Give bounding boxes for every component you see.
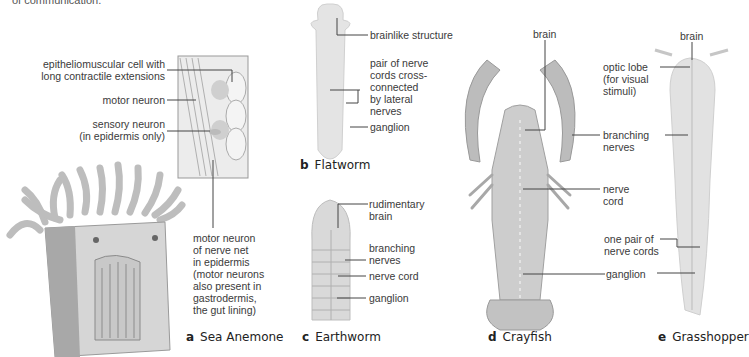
grasshopper-illustration — [655, 50, 728, 315]
sea-anemone-inset — [178, 56, 248, 178]
label-sensory-neuron: sensory neuron (in epidermis only) — [40, 118, 165, 142]
label-branching-nerves: branching nerves — [603, 129, 649, 153]
label-ganglion-flatworm: ganglion — [370, 121, 410, 133]
label-nerve-cord: nerve cord — [603, 183, 629, 207]
label-brain-crayfish: brain — [533, 28, 556, 40]
label-nerve-cord-earthworm: nerve cord — [369, 270, 419, 282]
label-brain-grasshopper: brain — [680, 30, 703, 42]
label-motor-neuron: motor neuron — [70, 94, 165, 106]
label-optic-lobe: optic lobe (for visual stimuli) — [603, 61, 649, 97]
label-one-pair-nerve-cords: one pair of nerve cords — [604, 233, 659, 257]
label-ganglion: ganglion — [606, 268, 646, 280]
label-motor-neuron-nerve-net: motor neuron of nerve net in epidermis (… — [193, 232, 303, 316]
caption-sea-anemone: aSea Anemone — [186, 330, 284, 344]
label-rudimentary-brain: rudimentary brain — [369, 198, 424, 222]
label-branching-nerves-earthworm: branching nerves — [369, 242, 415, 266]
flatworm-illustration — [311, 4, 350, 159]
label-epitheliomuscular-cell: epitheliomuscular cell with long contrac… — [20, 58, 165, 82]
label-brainlike-structure: brainlike structure — [370, 29, 453, 41]
caption-crayfish: dCrayfish — [488, 330, 552, 344]
earthworm-illustration — [312, 200, 350, 320]
caption-flatworm: bFlatworm — [300, 158, 370, 172]
label-ganglion-earthworm: ganglion — [369, 292, 409, 304]
crayfish-illustration — [465, 60, 575, 330]
label-pair-of-nerve-cords: pair of nerve cords cross- connected by … — [370, 57, 428, 117]
caption-grasshopper: eGrasshopper — [658, 330, 749, 344]
caption-earthworm: cEarthworm — [302, 330, 381, 344]
sea-anemone-illustration — [10, 165, 182, 357]
